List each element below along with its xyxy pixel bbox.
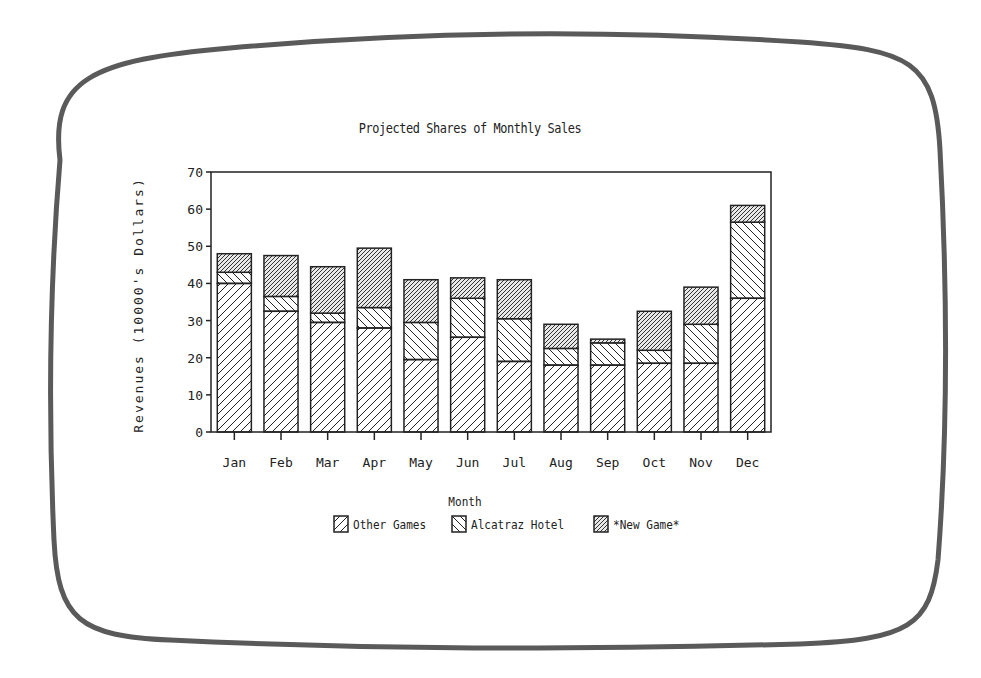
- bar-segment: [357, 308, 391, 328]
- bar-segment: [684, 324, 718, 363]
- x-tick-label: Oct: [643, 455, 666, 470]
- bar-segment: [311, 313, 345, 322]
- plot-area: 010203040506070JanFebMarAprMayJunJulAugS…: [0, 0, 981, 678]
- bar-segment: [637, 363, 671, 432]
- bar-segment: [731, 222, 765, 298]
- bar-segment: [404, 322, 438, 359]
- pattern-swatch-icon: [451, 515, 467, 533]
- y-tick-label: 60: [187, 202, 203, 217]
- pattern-swatch-icon: [333, 515, 349, 533]
- x-tick-label: Jul: [503, 455, 526, 470]
- pattern-swatch-icon: [593, 515, 609, 533]
- bar-segment: [684, 363, 718, 432]
- bar-segment: [591, 365, 625, 432]
- bar-segment: [217, 254, 251, 273]
- bar-segment: [497, 319, 531, 362]
- bar-segment: [217, 272, 251, 283]
- x-tick-label: Feb: [269, 455, 293, 470]
- y-tick-label: 50: [187, 239, 203, 254]
- bar-segment: [311, 322, 345, 432]
- legend-item-other-games: Other Games: [333, 515, 439, 533]
- x-tick-label: Aug: [549, 455, 572, 470]
- y-tick-label: 30: [187, 314, 203, 329]
- bar-segment: [544, 348, 578, 365]
- x-tick-label: Jan: [223, 455, 246, 470]
- bar-segment: [731, 205, 765, 222]
- bar-segment: [591, 343, 625, 365]
- bar-segment: [357, 248, 391, 307]
- bar-segment: [591, 339, 625, 343]
- bar-segment: [684, 287, 718, 324]
- bar-segment: [217, 283, 251, 432]
- legend-item-alcatraz-hotel: Alcatraz Hotel: [451, 515, 581, 533]
- bar-segment: [497, 280, 531, 319]
- x-tick-label: Jun: [456, 455, 479, 470]
- bar-segment: [264, 296, 298, 311]
- bar-segment: [451, 298, 485, 337]
- legend-item-new-game: *New Game*: [593, 515, 691, 533]
- x-tick-label: Apr: [363, 455, 387, 470]
- bar-segment: [264, 311, 298, 432]
- bar-segment: [731, 298, 765, 432]
- bar-segment: [637, 350, 671, 363]
- bar-segment: [404, 280, 438, 323]
- y-tick-label: 10: [187, 388, 203, 403]
- bar-segment: [544, 324, 578, 348]
- y-tick-label: 20: [187, 351, 203, 366]
- y-tick-label: 70: [187, 165, 203, 180]
- x-axis-label: Month: [70, 494, 861, 509]
- x-tick-label: Sep: [596, 455, 620, 470]
- bar-segment: [264, 256, 298, 297]
- bar-segment: [311, 267, 345, 313]
- bar-segment: [404, 360, 438, 432]
- bar-segment: [637, 311, 671, 350]
- y-tick-label: 40: [187, 276, 203, 291]
- bar-segment: [451, 337, 485, 432]
- bar-segment: [544, 365, 578, 432]
- x-tick-label: Nov: [689, 455, 713, 470]
- x-tick-label: May: [409, 455, 433, 470]
- x-tick-label: Mar: [316, 455, 340, 470]
- bar-segment: [357, 328, 391, 432]
- x-tick-label: Dec: [736, 455, 759, 470]
- bar-segment: [497, 361, 531, 432]
- bar-segment: [451, 278, 485, 298]
- y-tick-label: 0: [195, 425, 203, 440]
- legend: Other Games Alcatraz Hotel *New Game*: [333, 515, 691, 533]
